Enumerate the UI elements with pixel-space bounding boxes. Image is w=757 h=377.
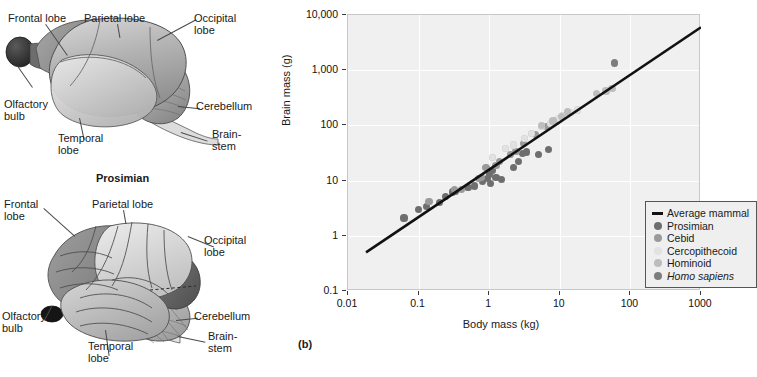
legend-item[interactable]: Cercopithecoid [652,245,749,258]
x-tick-label: 0.1 [388,297,448,309]
label-temporal-lobe: Temporal lobe [88,340,133,364]
y-tick [342,69,346,70]
panel-tag: (b) [298,338,312,350]
legend-item-label: Cebid [667,232,694,244]
x-tick [488,291,489,295]
label-occipital-lobe: Occipital lobe [204,234,246,258]
diagram-caption-prosimian: Prosimian [96,172,149,184]
y-tick-label: 10,000 [282,8,338,20]
label-olfactory-bulb: Olfactory bulb [4,98,48,122]
label-brainstem: Brain- stem [212,128,241,152]
x-tick-label: 0.01 [317,297,377,309]
legend-item-label: Cercopithecoid [667,245,737,257]
x-axis-label: Body mass (kg) [282,318,720,330]
label-occipital-lobe: Occipital lobe [194,12,236,36]
brain-body-mass-chart: Average mammalProsimianCebidCercopitheco… [282,0,720,377]
y-axis-label: Brain mass (g) [280,54,292,126]
label-temporal-lobe: Temporal lobe [58,132,103,156]
legend-dot-swatch [654,222,662,230]
x-tick [418,291,419,295]
label-cerebellum: Cerebellum [194,310,250,322]
legend-item[interactable]: Prosimian [652,220,749,233]
legend-item-label: Prosimian [667,220,714,232]
x-tick [629,291,630,295]
legend-dot-swatch [654,247,662,255]
legend-item[interactable]: Hominoid [652,257,749,270]
prosimian-brain-diagram: Frontal lobe Parietal lobe Occipital lob… [0,0,282,190]
legend-item-label: Average mammal [667,207,749,219]
legend-dot-swatch [654,272,662,280]
plot-area: Average mammalProsimianCebidCercopitheco… [347,14,700,290]
x-tick-label: 1 [458,297,518,309]
legend-dot-swatch [654,234,662,242]
label-frontal-lobe: Frontal lobe [4,198,38,222]
y-tick [342,180,346,181]
x-tick [700,291,701,295]
prosimian-brain-illustration [0,0,282,190]
y-tick-label: 10 [282,174,338,186]
anthropoid-brain-diagram: Frontal lobe Parietal lobe Occipital lob… [0,186,282,377]
label-parietal-lobe: Parietal lobe [92,198,153,210]
label-frontal-lobe: Frontal lobe [8,12,66,24]
x-tick [559,291,560,295]
legend-item[interactable]: Cebid [652,232,749,245]
legend-dot-swatch [654,259,662,267]
legend-item[interactable]: Average mammal [652,207,749,220]
label-cerebellum: Cerebellum [196,100,252,112]
label-brainstem: Brain- stem [208,330,237,354]
y-tick [342,124,346,125]
x-tick-label: 100 [599,297,659,309]
y-tick [342,290,346,291]
legend-line-swatch [652,212,663,215]
legend-item[interactable]: Homo sapiens [652,270,749,283]
chart-legend: Average mammalProsimianCebidCercopitheco… [645,201,757,288]
anthropoid-brain-illustration [0,186,282,377]
label-parietal-lobe: Parietal lobe [84,12,145,24]
x-tick-label: 1000 [670,297,730,309]
x-tick [347,291,348,295]
y-tick-label: 0.1 [282,284,338,296]
legend-item-label: Homo sapiens [667,270,734,282]
y-tick-label: 1 [282,229,338,241]
legend-item-label: Hominoid [667,257,711,269]
y-tick [342,14,346,15]
label-olfactory-bulb: Olfactory bulb [2,310,46,334]
y-tick [342,235,346,236]
x-tick-label: 10 [529,297,589,309]
